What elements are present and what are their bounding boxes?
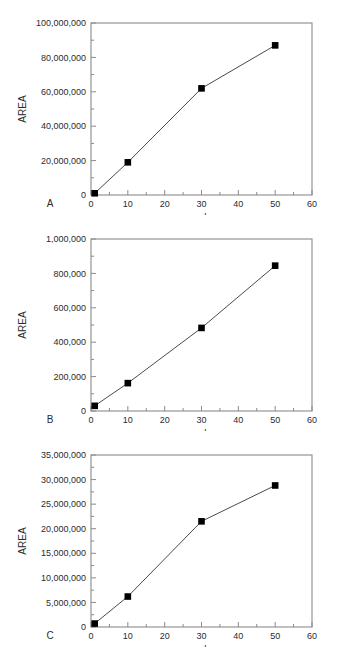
y-tick-label: 400,000 xyxy=(53,337,86,347)
x-tick-label-group: 0102030405060 xyxy=(88,199,317,209)
x-tick-label: 40 xyxy=(233,631,243,641)
x-tick-label: 20 xyxy=(160,415,170,425)
x-tick-label: 20 xyxy=(160,631,170,641)
data-point-marker xyxy=(272,262,279,269)
y-tick-label: 35,000,000 xyxy=(41,450,86,460)
y-tick-label: 30,000,000 xyxy=(41,475,86,485)
data-point-marker xyxy=(91,190,98,197)
y-tick-label-group: 0200,000400,000600,000800,0001,000,000 xyxy=(46,234,86,416)
x-tick-label: 20 xyxy=(160,199,170,209)
panel-label-b: B xyxy=(47,414,54,425)
y-tick-label: 1,000,000 xyxy=(46,234,86,244)
y-tick-label: 600,000 xyxy=(53,303,86,313)
plot-frame xyxy=(91,455,312,627)
y-tick-label: 60,000,000 xyxy=(41,87,86,97)
x-tick-group xyxy=(91,190,312,195)
x-tick-label: 30 xyxy=(196,631,206,641)
x-tick-label: 0 xyxy=(88,199,93,209)
panel-label-c: C xyxy=(46,630,53,641)
x-tick-label-group: 0102030405060 xyxy=(88,631,317,641)
data-point-marker xyxy=(272,482,279,489)
y-tick-label: 0 xyxy=(81,190,86,200)
x-tick-label: 30 xyxy=(196,199,206,209)
x-tick-label: 10 xyxy=(123,631,133,641)
x-tick-label: 50 xyxy=(270,199,280,209)
chart-svg-c: 010203040506005,000,00010,000,00015,000,… xyxy=(0,432,347,647)
x-tick-label: 40 xyxy=(233,415,243,425)
y-tick-label: 0 xyxy=(81,406,86,416)
caption-strip xyxy=(0,648,347,663)
marker-group xyxy=(91,42,278,197)
y-tick-label: 0 xyxy=(81,622,86,632)
y-tick-label: 100,000,000 xyxy=(36,18,86,28)
y-tick-label: 200,000 xyxy=(53,372,86,382)
series-line xyxy=(95,485,275,623)
x-tick-label: 0 xyxy=(88,415,93,425)
x-tick-label: 60 xyxy=(307,199,317,209)
y-tick-group xyxy=(91,455,96,627)
data-point-marker xyxy=(198,85,205,92)
x-tick-label: 40 xyxy=(233,199,243,209)
data-point-marker xyxy=(198,518,205,525)
chart-panel-a: 0102030405060020,000,00040,000,00060,000… xyxy=(0,0,347,215)
x-tick-label: 50 xyxy=(270,415,280,425)
chart-svg-a: 0102030405060020,000,00040,000,00060,000… xyxy=(0,0,347,215)
chart-panel-b: 01020304050600200,000400,000600,000800,0… xyxy=(0,216,347,431)
data-point-marker xyxy=(125,159,132,166)
y-tick-label: 80,000,000 xyxy=(41,53,86,63)
x-tick-label: 60 xyxy=(307,631,317,641)
y-axis-title: AREA xyxy=(17,95,28,123)
data-point-marker xyxy=(125,593,132,600)
marker-group xyxy=(91,482,278,627)
panel-label-a: A xyxy=(47,198,54,209)
x-tick-label: 30 xyxy=(196,415,206,425)
data-point-marker xyxy=(91,403,98,410)
y-tick-label: 20,000,000 xyxy=(41,524,86,534)
y-tick-label: 25,000,000 xyxy=(41,499,86,509)
y-tick-label: 800,000 xyxy=(53,269,86,279)
data-point-marker xyxy=(91,620,98,627)
series-line xyxy=(95,45,275,193)
x-axis-title: ppb xyxy=(193,212,210,215)
y-tick-label: 5,000,000 xyxy=(46,598,86,608)
y-tick-group xyxy=(91,23,96,195)
series-line xyxy=(95,266,275,406)
chart-svg-b: 01020304050600200,000400,000600,000800,0… xyxy=(0,216,347,431)
x-tick-label-group: 0102030405060 xyxy=(88,415,317,425)
x-tick-label: 10 xyxy=(123,415,133,425)
x-tick-group xyxy=(91,406,312,411)
axes-group: 010203040506005,000,00010,000,00015,000,… xyxy=(41,450,317,641)
x-axis-title: ppb xyxy=(193,428,210,431)
x-axis-title: ppb xyxy=(193,644,210,647)
x-tick-label: 0 xyxy=(88,631,93,641)
y-tick-label: 40,000,000 xyxy=(41,121,86,131)
y-axis-title: AREA xyxy=(17,527,28,555)
y-tick-label-group: 020,000,00040,000,00060,000,00080,000,00… xyxy=(36,18,86,200)
x-tick-label: 60 xyxy=(307,415,317,425)
data-point-marker xyxy=(125,380,132,387)
x-tick-label: 10 xyxy=(123,199,133,209)
y-axis-title: AREA xyxy=(17,311,28,339)
data-point-marker xyxy=(272,42,279,49)
x-tick-group xyxy=(91,622,312,627)
plot-frame xyxy=(91,23,312,195)
x-tick-label: 50 xyxy=(270,631,280,641)
data-point-marker xyxy=(198,325,205,332)
y-tick-label: 20,000,000 xyxy=(41,156,86,166)
y-tick-label: 15,000,000 xyxy=(41,548,86,558)
y-tick-group xyxy=(91,239,96,411)
marker-group xyxy=(91,262,278,409)
y-tick-label-group: 05,000,00010,000,00015,000,00020,000,000… xyxy=(41,450,86,632)
y-tick-label: 10,000,000 xyxy=(41,573,86,583)
figure-page: 0102030405060020,000,00040,000,00060,000… xyxy=(0,0,347,663)
chart-panel-c: 010203040506005,000,00010,000,00015,000,… xyxy=(0,432,347,647)
